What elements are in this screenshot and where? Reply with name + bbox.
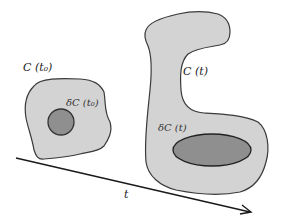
region-t0: C (t₀) δC (t₀)	[23, 61, 111, 159]
region-t: C (t) δC (t)	[145, 12, 268, 194]
subregion-t-label: δC (t)	[158, 122, 187, 133]
evolving-region-diagram: C (t₀) δC (t₀) C (t) δC (t) t	[0, 0, 282, 224]
subregion-t-shape	[173, 134, 251, 166]
time-axis-label: t	[124, 188, 129, 201]
subregion-t0-shape	[48, 109, 74, 135]
subregion-t0-label: δC (t₀)	[66, 97, 99, 108]
region-t0-label: C (t₀)	[23, 61, 52, 74]
region-t-label: C (t)	[183, 65, 208, 78]
region-t-shape	[145, 12, 268, 194]
